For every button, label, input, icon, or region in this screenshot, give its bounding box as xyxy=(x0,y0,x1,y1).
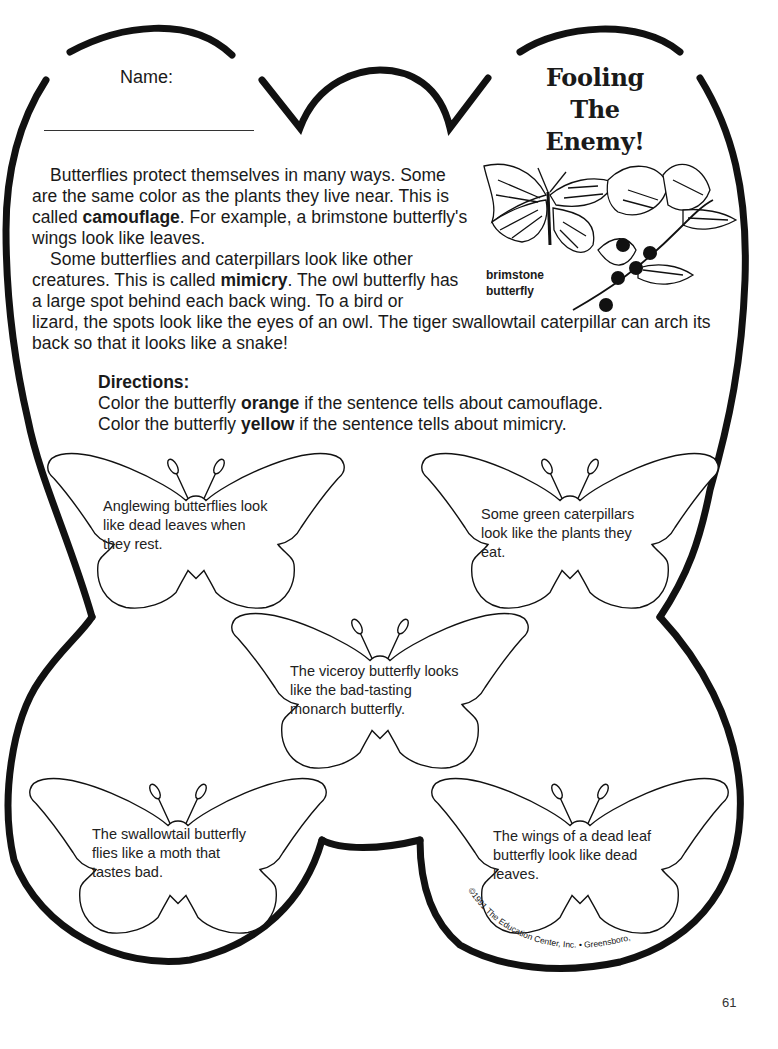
butterfly-card-2-text: Some green caterpillars look like the pl… xyxy=(481,505,634,562)
color-orange: orange xyxy=(241,393,299,413)
title-line-2: The xyxy=(520,94,670,126)
term-camouflage: camouflage xyxy=(83,207,180,227)
worksheet-title: Fooling The Enemy! xyxy=(520,62,670,158)
directions-line-2: Color the butterfly yellow if the senten… xyxy=(98,414,698,435)
intro-paragraph-1: Butterflies protect themselves in many w… xyxy=(32,165,472,249)
worksheet-page: Name: Fooling The Enemy! xyxy=(0,0,778,1049)
butterfly-card-4-text: The swallowtail butterfly flies like a m… xyxy=(92,825,246,882)
name-input-line[interactable] xyxy=(44,130,254,131)
name-label: Name: xyxy=(120,67,173,88)
svg-text:©1991 The Education Center, In: ©1991 The Education Center, Inc. • Green… xyxy=(440,860,631,950)
title-line-1: Fooling xyxy=(520,62,670,94)
intro-text: Butterflies protect themselves in many w… xyxy=(32,165,472,312)
page-number: 61 xyxy=(722,995,736,1010)
directions-line-1: Color the butterfly orange if the senten… xyxy=(98,393,698,414)
directions-title: Directions: xyxy=(98,372,698,393)
intro-paragraph-2-continued: lizard, the spots look like the eyes of … xyxy=(32,312,722,354)
color-yellow: yellow xyxy=(241,414,295,434)
intro-paragraph-2: Some butterflies and caterpillars look l… xyxy=(32,249,472,312)
directions: Directions: Color the butterfly orange i… xyxy=(98,372,698,435)
butterfly-card-3-text: The viceroy butterfly looks like the bad… xyxy=(290,662,458,719)
illustration-caption: brimstone butterfly xyxy=(486,267,544,299)
butterfly-card-1-text: Anglewing butterflies look like dead lea… xyxy=(103,497,267,554)
copyright-notice: ©1991 The Education Center, Inc. • Green… xyxy=(440,860,680,980)
term-mimicry: mimicry xyxy=(220,270,287,290)
